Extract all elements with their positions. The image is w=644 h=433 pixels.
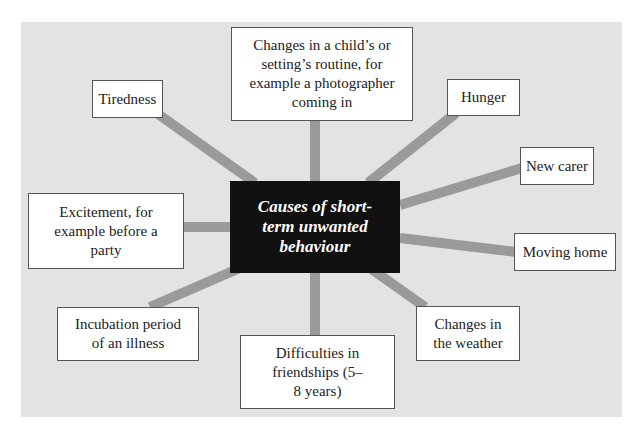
central-topic: Causes of short-term unwanted behaviour [230, 181, 400, 273]
node-incubation: Incubation period of an illness [57, 307, 199, 361]
node-routine: Changes in a child’s or setting’s routin… [231, 27, 413, 121]
node-friendships: Difficulties in friendships (5–8 years) [240, 335, 395, 409]
connector-tiredness [158, 114, 255, 183]
node-new-carer: New carer [520, 147, 594, 185]
node-label: New carer [526, 157, 588, 176]
node-label: Difficulties in friendships (5–8 years) [269, 344, 366, 401]
node-tiredness: Tiredness [92, 80, 163, 118]
node-label: Changes in a child’s or setting’s routin… [236, 36, 408, 112]
node-label: Incubation period of an illness [68, 315, 188, 353]
node-label: Changes in the weather [429, 315, 507, 353]
connector-new-carer [400, 168, 522, 205]
connector-weather [370, 268, 425, 307]
connector-moving-home [400, 238, 516, 252]
node-excitement: Excitement, for example before a party [28, 193, 184, 269]
node-weather: Changes in the weather [416, 306, 520, 361]
connector-incubation [150, 268, 240, 307]
node-hunger: Hunger [447, 79, 520, 116]
connector-hunger [368, 113, 456, 183]
node-label: Excitement, for example before a party [47, 203, 165, 260]
node-label: Moving home [523, 243, 608, 262]
central-topic-label: Causes of short-term unwanted behaviour [244, 197, 386, 257]
node-label: Tiredness [99, 90, 157, 109]
node-moving-home: Moving home [514, 233, 616, 271]
node-label: Hunger [461, 88, 506, 107]
